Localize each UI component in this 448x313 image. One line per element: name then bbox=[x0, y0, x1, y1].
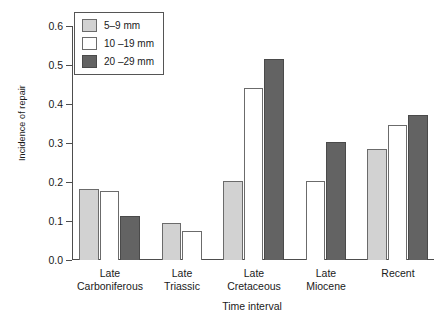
bar bbox=[326, 142, 346, 260]
bar bbox=[79, 189, 99, 260]
bar bbox=[306, 181, 326, 260]
x-tick-label: LateMiocene bbox=[306, 267, 346, 293]
bar bbox=[162, 223, 182, 260]
legend-swatch bbox=[82, 19, 97, 32]
x-axis-title: Time interval bbox=[72, 300, 432, 312]
x-tick-label-line: Late bbox=[77, 267, 143, 280]
legend-item: 20 –29 mm bbox=[82, 55, 154, 68]
y-tick-label: 0.0 bbox=[48, 254, 63, 266]
legend-label: 20 –29 mm bbox=[104, 56, 154, 67]
bar bbox=[120, 216, 140, 260]
x-tick-label-line: Cretaceous bbox=[227, 280, 281, 293]
y-tick-label: 0.3 bbox=[48, 137, 63, 149]
bar bbox=[182, 231, 202, 260]
legend-label: 5–9 mm bbox=[104, 20, 140, 31]
y-axis-title: Incidence of repair bbox=[17, 53, 27, 193]
bar-group bbox=[162, 26, 203, 260]
x-tick-label-line: Carboniferous bbox=[77, 280, 143, 293]
bar-chart: Incidence of repair 0.00.10.20.30.40.50.… bbox=[0, 0, 448, 313]
x-tick-label-line: Late bbox=[306, 267, 346, 280]
bar bbox=[408, 115, 428, 260]
x-tick-label: LateCretaceous bbox=[227, 267, 281, 293]
bar bbox=[100, 191, 120, 260]
legend-item: 5–9 mm bbox=[82, 19, 154, 32]
bar bbox=[388, 125, 408, 260]
legend: 5–9 mm10 –19 mm20 –29 mm bbox=[74, 12, 164, 75]
bar-group bbox=[367, 26, 429, 260]
bar bbox=[244, 88, 264, 260]
x-tick-label-line: Triassic bbox=[164, 280, 200, 293]
x-tick-label-line: Late bbox=[164, 267, 200, 280]
x-tick-label-line: Miocene bbox=[306, 280, 346, 293]
bar bbox=[264, 59, 284, 260]
y-tick-mark bbox=[66, 260, 72, 261]
x-tick-label: LateCarboniferous bbox=[77, 267, 143, 293]
x-tick-label: Recent bbox=[381, 267, 414, 280]
x-tick-label: LateTriassic bbox=[164, 267, 200, 293]
legend-label: 10 –19 mm bbox=[104, 38, 154, 49]
bar bbox=[223, 181, 243, 260]
y-tick-label: 0.6 bbox=[48, 20, 63, 32]
legend-swatch bbox=[82, 37, 97, 50]
bar-group bbox=[306, 26, 347, 260]
x-tick-label-line: Late bbox=[227, 267, 281, 280]
y-tick-label: 0.1 bbox=[48, 215, 63, 227]
y-tick-label: 0.4 bbox=[48, 98, 63, 110]
legend-swatch bbox=[82, 55, 97, 68]
legend-item: 10 –19 mm bbox=[82, 37, 154, 50]
y-tick-label: 0.5 bbox=[48, 59, 63, 71]
y-tick-label: 0.2 bbox=[48, 176, 63, 188]
bar bbox=[367, 149, 387, 260]
bar-group bbox=[223, 26, 285, 260]
x-tick-label-line: Recent bbox=[381, 267, 414, 280]
